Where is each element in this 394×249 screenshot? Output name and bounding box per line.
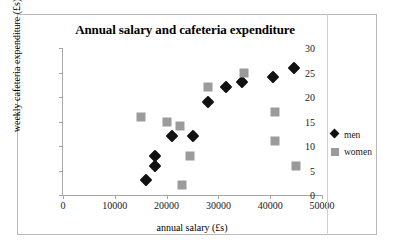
data-point-women [162, 117, 171, 126]
x-tick-label: 30000 [206, 200, 231, 211]
data-point-women [185, 151, 194, 160]
data-point-men [266, 71, 279, 84]
x-tick-mark [322, 195, 323, 199]
data-point-men [235, 76, 248, 89]
x-tick-mark [63, 195, 64, 199]
chart-figure: Annual salary and cafeteria expenditure … [0, 0, 394, 249]
data-point-men [165, 130, 178, 143]
x-tick-label: 10000 [102, 200, 127, 211]
diamond-marker-icon [330, 129, 341, 140]
y-tick-label: 15 [305, 116, 315, 127]
data-point-men [149, 149, 162, 162]
data-point-women [271, 107, 280, 116]
x-tick-label: 50000 [310, 200, 335, 211]
y-axis-title: weekly cafeteria expenditure (£s) [11, 0, 22, 146]
data-point-women [178, 181, 187, 190]
legend-entry-men: men [330, 126, 378, 143]
x-tick-label: 20000 [154, 200, 179, 211]
data-point-men [202, 96, 215, 109]
legend-entry-women: women [330, 143, 378, 160]
x-tick-mark [270, 195, 271, 199]
y-tick-label: 10 [305, 141, 315, 152]
legend-label: men [344, 130, 360, 140]
chart-legend: menwomen [330, 126, 378, 160]
data-point-women [240, 68, 249, 77]
y-tick-label: 25 [305, 67, 315, 78]
x-axis-title: annual salary (£s) [62, 222, 322, 233]
data-point-women [271, 137, 280, 146]
data-point-men [140, 174, 153, 187]
y-tick-mark [59, 146, 63, 147]
y-tick-mark [59, 97, 63, 98]
x-tick-label: 0 [61, 200, 66, 211]
square-marker-icon [330, 146, 341, 157]
data-point-women [292, 161, 301, 170]
y-tick-mark [59, 171, 63, 172]
y-tick-label: 5 [310, 165, 315, 176]
y-tick-mark [59, 122, 63, 123]
legend-divider [327, 14, 328, 235]
x-tick-mark [218, 195, 219, 199]
data-point-men [287, 61, 300, 74]
y-tick-label: 20 [305, 92, 315, 103]
legend-swatch [330, 129, 340, 139]
y-tick-label: 0 [310, 190, 315, 201]
data-point-women [204, 83, 213, 92]
data-point-women [175, 122, 184, 131]
legend-swatch [331, 148, 339, 156]
y-tick-mark [59, 48, 63, 49]
x-tick-mark [115, 195, 116, 199]
plot-area: 051015202530 01000020000300004000050000 [62, 48, 322, 196]
x-tick-mark [167, 195, 168, 199]
chart-title: Annual salary and cafeteria expenditure [40, 22, 330, 38]
legend-label: women [344, 147, 372, 157]
data-point-men [220, 81, 233, 94]
y-tick-mark [59, 73, 63, 74]
x-tick-label: 40000 [258, 200, 283, 211]
data-point-men [186, 130, 199, 143]
data-point-women [136, 112, 145, 121]
y-tick-label: 30 [305, 43, 315, 54]
